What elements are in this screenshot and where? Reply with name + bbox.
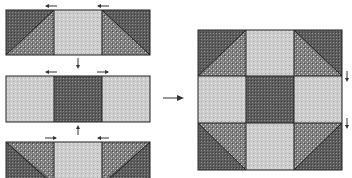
light-square — [102, 76, 150, 122]
middle-row — [6, 70, 150, 122]
press-arrow-left-icon — [97, 4, 109, 8]
hst-unit-right — [102, 10, 150, 55]
press-arrow-right-icon — [45, 136, 57, 140]
quilt-assembly-diagram — [0, 0, 352, 178]
press-arrow-right-icon — [97, 70, 109, 74]
light-square — [6, 76, 54, 122]
arrow-up-icon — [76, 125, 80, 135]
finished-block — [198, 30, 342, 170]
seam-arrow-down-icon — [345, 118, 349, 129]
light-square — [54, 142, 102, 178]
bottom-row — [6, 136, 150, 178]
dark-square — [54, 76, 102, 122]
hst-unit-right — [102, 142, 150, 178]
press-arrow-left-icon — [97, 136, 109, 140]
top-row — [6, 4, 150, 55]
press-arrow-left-icon — [45, 4, 57, 8]
hst-unit-left — [6, 142, 54, 178]
press-arrow-left-icon — [45, 70, 57, 74]
hst-unit-left — [6, 10, 54, 55]
arrow-down-icon — [76, 58, 80, 69]
seam-arrow-down-icon — [345, 71, 349, 82]
light-square — [54, 10, 102, 55]
arrow-right-icon — [163, 95, 184, 101]
